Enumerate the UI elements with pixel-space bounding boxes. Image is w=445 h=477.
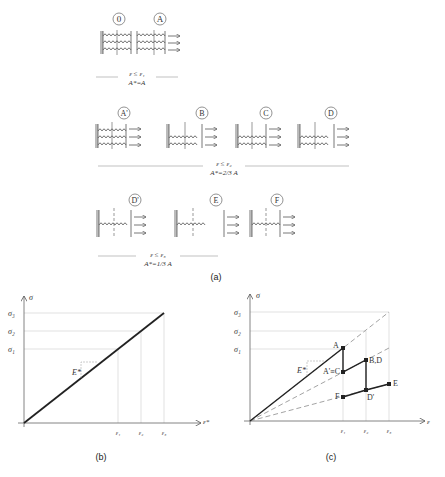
svg-text:ε₁: ε₁ <box>116 430 120 436</box>
state-E: E <box>174 194 239 238</box>
svg-text:σ: σ <box>256 291 261 300</box>
svg-text:ε₁: ε₁ <box>341 428 345 434</box>
figure-a: 0 A ε ≤ ε₁ A*=A <box>95 13 349 282</box>
svg-text:σ₁: σ₁ <box>8 345 15 354</box>
svg-text:σ₁: σ₁ <box>234 345 241 354</box>
svg-text:ε ≤ ε₃: ε ≤ ε₃ <box>150 251 166 259</box>
state-B: B <box>166 107 217 149</box>
svg-text:σ₂: σ₂ <box>234 327 241 336</box>
state-D: D <box>297 107 349 149</box>
svg-text:D: D <box>328 109 334 118</box>
state-D-prime: D' <box>96 194 146 238</box>
stress-strain-line <box>24 313 164 423</box>
svg-text:σ₃: σ₃ <box>8 309 15 318</box>
svg-text:σ: σ <box>29 293 34 302</box>
svg-text:C: C <box>263 109 268 118</box>
svg-text:F: F <box>335 392 340 401</box>
svg-text:A: A <box>333 341 339 350</box>
point-F <box>341 395 345 399</box>
point-B-D <box>364 358 368 362</box>
state-F: F <box>249 194 295 238</box>
svg-text:A'≡C: A'≡C <box>323 367 340 376</box>
state-A: A <box>137 13 180 55</box>
svg-text:σ₂: σ₂ <box>8 327 15 336</box>
svg-text:A': A' <box>120 109 128 118</box>
figure-canvas: 0 A ε ≤ ε₁ A*=A <box>0 0 445 477</box>
row2-condition: ε ≤ ε₂ A*=2/3 A <box>98 160 349 177</box>
svg-text:E*: E* <box>71 368 81 377</box>
figure-b: E* σ ε* σ₃ σ₂ σ₁ ε₁ ε₂ ε₃ (b) <box>8 293 210 462</box>
point-E <box>387 382 391 386</box>
state-A-prime: A' <box>95 107 141 149</box>
row1-condition: ε ≤ ε₁ A*=A <box>96 70 178 87</box>
caption-a: (a) <box>211 272 222 282</box>
svg-text:ε ≤ ε₂: ε ≤ ε₂ <box>216 160 232 168</box>
svg-text:0: 0 <box>117 14 122 24</box>
svg-text:F: F <box>275 196 280 205</box>
svg-text:A*=1/3 A: A*=1/3 A <box>143 260 172 268</box>
svg-text:ε: ε <box>427 418 430 426</box>
caption-b: (b) <box>96 452 107 462</box>
point-A <box>341 346 345 350</box>
svg-text:B: B <box>199 109 204 118</box>
state-C: C <box>235 107 281 149</box>
svg-text:ε₃: ε₃ <box>162 430 166 436</box>
svg-text:D': D' <box>131 196 139 205</box>
svg-text:E: E <box>393 379 398 388</box>
svg-text:A*=2/3 A: A*=2/3 A <box>209 169 238 177</box>
svg-text:E: E <box>214 196 219 205</box>
point-D-prime <box>364 388 368 392</box>
row3-condition: ε ≤ ε₃ A*=1/3 A <box>98 251 218 268</box>
svg-text:σ₃: σ₃ <box>234 308 241 317</box>
svg-text:ε₂: ε₂ <box>364 428 368 434</box>
svg-text:ε₃: ε₃ <box>387 428 391 434</box>
caption-c: (c) <box>326 452 337 462</box>
svg-text:E*: E* <box>296 366 306 375</box>
svg-text:ε ≤ ε₁: ε ≤ ε₁ <box>129 70 144 78</box>
state-0: 0 <box>100 13 131 55</box>
svg-text:D': D' <box>367 393 375 402</box>
svg-text:B,D: B,D <box>369 356 382 365</box>
svg-text:ε*: ε* <box>203 418 210 426</box>
figure-c: A A'≡C B,D F D' E E* σ ε σ₃ σ₂ σ₁ ε₁ ε₂ … <box>234 291 430 462</box>
svg-text:A: A <box>157 14 164 24</box>
svg-text:A*=A: A*=A <box>128 79 146 87</box>
svg-text:ε₂: ε₂ <box>139 430 143 436</box>
point-A-prime-C <box>341 370 345 374</box>
